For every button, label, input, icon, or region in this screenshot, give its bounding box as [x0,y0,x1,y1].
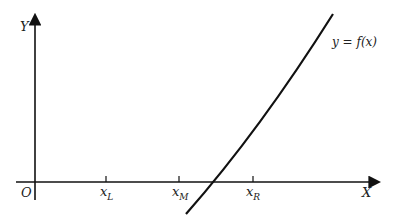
tick-label-xl: xL [100,185,113,202]
origin-label: O [21,186,32,199]
tick-label-xm: xM [172,185,189,202]
diagram-canvas [0,0,394,222]
curve-label: y = f(x) [332,36,377,48]
function-curve [186,14,333,214]
tick-label-xr: xR [246,185,260,202]
y-axis-label: Y [20,20,29,33]
x-axis-label: X [362,186,371,199]
